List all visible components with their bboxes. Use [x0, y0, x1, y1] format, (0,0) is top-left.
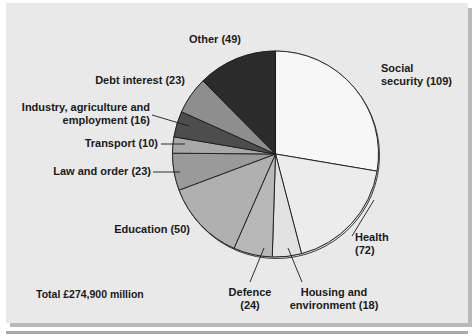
slice-label-other: Other (49): [145, 33, 285, 46]
pie-slice-social-security[interactable]: Social security (109): [276, 51, 379, 171]
total-label: Total £274,900 million: [36, 288, 144, 300]
slice-label-social-security: Social security (109): [381, 62, 473, 88]
slice-label-education: Education (50): [30, 223, 190, 236]
slice-label-health: Health (72): [355, 231, 425, 257]
slice-label-law-and-order: Law and order (23): [25, 165, 151, 178]
pie-slices: Social security (109)Health (72)Housing …: [172, 51, 378, 257]
slice-label-transport: Transport (10): [45, 137, 158, 150]
slice-label-defence: Defence (24): [205, 286, 295, 312]
slice-label-debt-interest: Debt interest (23): [40, 74, 185, 87]
slice-label-industry-agriculture-employment: Industry, agriculture and employment (16…: [10, 101, 150, 127]
figure-page: Social security (109)Health (72)Housing …: [0, 0, 476, 336]
